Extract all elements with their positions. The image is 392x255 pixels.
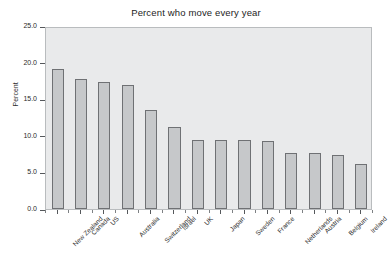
x-axis-tick-label-text: Belgium (347, 215, 369, 237)
bar (285, 153, 297, 209)
x-axis-minor-tick-mark (92, 210, 93, 213)
x-axis-minor-tick-mark (45, 210, 46, 213)
x-axis-minor-tick-mark (372, 210, 373, 213)
x-axis-tick-mark (103, 210, 104, 214)
x-axis-tick-label-text: UK (202, 215, 213, 226)
bar (332, 155, 344, 209)
x-axis-tick-mark (244, 210, 245, 214)
y-axis-tick-label: 20.0 (0, 59, 37, 66)
x-axis-tick-label: France (276, 215, 295, 234)
x-axis-minor-tick-mark (232, 210, 233, 213)
x-axis-tick-label-text: France (276, 215, 295, 234)
x-axis-minor-tick-mark (209, 210, 210, 213)
y-axis-tick-label: 0.0 (0, 205, 37, 212)
bar (192, 140, 204, 210)
y-axis-tick-label: 15.0 (0, 95, 37, 102)
x-axis-tick-mark (290, 210, 291, 214)
bar (215, 140, 227, 209)
x-axis-minor-tick-mark (255, 210, 256, 213)
bar (122, 85, 134, 209)
bar (309, 153, 321, 209)
bars-layer (46, 28, 371, 209)
x-axis-tick-mark (57, 210, 58, 214)
chart-figure: Percent who move every year Percent 0.05… (0, 0, 392, 255)
y-axis-tick-label: 10.0 (0, 132, 37, 139)
x-axis-tick-label: Japan (228, 215, 246, 233)
bar (98, 82, 110, 209)
x-axis-tick-mark (337, 210, 338, 214)
x-axis-tick-label-text: Sweden (254, 215, 276, 237)
x-axis-tick-mark (150, 210, 151, 214)
x-axis-tick-label: UK (202, 215, 213, 226)
x-axis-tick-label: Belgium (347, 215, 369, 237)
x-axis-tick-mark (314, 210, 315, 214)
bar (52, 69, 64, 209)
x-axis-tick-label-text: Japan (228, 215, 246, 233)
bar (145, 110, 157, 209)
x-axis-tick-mark (197, 210, 198, 214)
x-axis-tick-label: Australia (137, 215, 160, 238)
bar (168, 127, 180, 209)
x-axis-tick-mark (80, 210, 81, 214)
x-axis-minor-tick-mark (185, 210, 186, 213)
x-axis-tick-label: US (109, 215, 120, 226)
x-axis-minor-tick-mark (302, 210, 303, 213)
bar (238, 140, 250, 209)
x-axis-minor-tick-mark (325, 210, 326, 213)
x-axis-tick-mark (173, 210, 174, 214)
x-axis-tick-mark (267, 210, 268, 214)
x-axis-minor-tick-mark (68, 210, 69, 213)
x-axis-minor-tick-mark (279, 210, 280, 213)
x-axis-minor-tick-mark (138, 210, 139, 213)
x-axis-tick-mark (220, 210, 221, 214)
x-axis-tick-label: Sweden (254, 215, 276, 237)
x-axis-tick-label-text: Ireland (369, 215, 388, 234)
y-axis-tick-label: 25.0 (0, 22, 37, 29)
y-axis-tick-label: 5.0 (0, 168, 37, 175)
x-axis-tick-label-text: Australia (137, 215, 160, 238)
bar (262, 141, 274, 209)
bar (355, 164, 367, 209)
x-axis-minor-tick-mark (349, 210, 350, 213)
x-axis-minor-tick-mark (162, 210, 163, 213)
x-axis-tick-label: Ireland (369, 215, 388, 234)
chart-title: Percent who move every year (0, 7, 392, 18)
plot-area (45, 27, 372, 210)
bar (75, 79, 87, 209)
x-axis-minor-tick-mark (115, 210, 116, 213)
x-axis-tick-mark (127, 210, 128, 214)
x-axis-tick-label-text: US (109, 215, 120, 226)
x-axis-tick-mark (360, 210, 361, 214)
